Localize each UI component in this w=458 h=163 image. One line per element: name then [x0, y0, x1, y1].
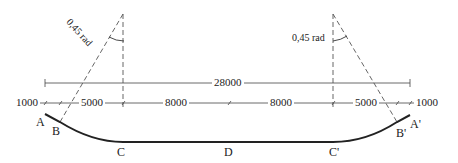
track-curve [45, 114, 410, 142]
point-label-d: D [224, 146, 233, 158]
right-angle-label: 0,45 rad [292, 33, 325, 43]
point-label-b: B [52, 125, 60, 137]
overall-dimension-label: 28000 [212, 77, 244, 88]
dimension-label-8000-left: 8000 [163, 97, 189, 108]
point-label-c-prime: C' [329, 146, 339, 158]
dimension-label-5000-right: 5000 [353, 97, 379, 108]
point-label-c: C [117, 146, 125, 158]
left-angle-arc [109, 37, 124, 41]
dimension-label-1000-right: 1000 [416, 97, 438, 108]
dimension-label-5000-left: 5000 [79, 97, 105, 108]
point-label-a-prime: A' [410, 118, 421, 130]
dimension-label-8000-right: 8000 [268, 97, 294, 108]
track-profile-diagram: 0,45 rad 0,45 rad 28000 1000 5000 8000 8… [0, 0, 458, 163]
dimension-label-1000-left: 1000 [16, 97, 38, 108]
point-label-a: A [36, 116, 45, 128]
point-label-b-prime: B' [396, 127, 406, 139]
right-angle-arc [333, 36, 347, 41]
